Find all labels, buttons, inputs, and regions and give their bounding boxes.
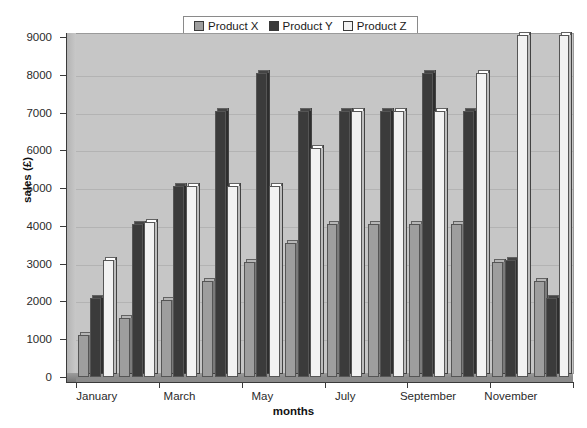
bar	[186, 186, 197, 377]
bar-side	[321, 145, 324, 374]
y-tick-mark	[60, 37, 66, 38]
bar-face	[327, 224, 338, 377]
x-tick-mark	[325, 382, 326, 388]
y-tick-mark	[60, 377, 66, 378]
y-tick-mark	[60, 75, 66, 76]
y-tick-mark	[60, 226, 66, 227]
bar	[161, 300, 172, 377]
y-tick-mark	[60, 301, 66, 302]
x-tick-label: March	[164, 390, 196, 402]
bar	[559, 35, 570, 377]
bar	[244, 262, 255, 377]
bar-side	[445, 108, 448, 374]
bar-face	[451, 224, 462, 377]
bar-face	[339, 111, 350, 377]
y-tick-label: 8000	[0, 69, 52, 81]
x-tick-label: September	[400, 390, 456, 402]
x-tick-label: July	[335, 390, 355, 402]
bar	[393, 111, 404, 377]
bar-side	[155, 219, 158, 374]
bar-chart: Product X Product Y Product Z 0100020003…	[0, 0, 587, 428]
bar-face	[434, 111, 445, 377]
bar-face	[161, 300, 172, 377]
bar	[144, 222, 155, 377]
bar-face	[409, 224, 420, 377]
bar-face	[215, 111, 226, 377]
bar-face	[393, 111, 404, 377]
bar	[546, 298, 557, 377]
bar	[78, 335, 89, 377]
bar-side	[528, 32, 531, 374]
x-tick-label: November	[484, 390, 537, 402]
x-axis-title: months	[0, 405, 587, 417]
bar-face	[559, 35, 570, 377]
bar	[534, 281, 545, 377]
y-tick-label: 1000	[0, 333, 52, 345]
y-tick-label: 9000	[0, 31, 52, 43]
bar	[451, 224, 462, 377]
bar-face	[476, 73, 487, 377]
x-tick-mark	[76, 382, 77, 388]
bar	[269, 186, 280, 377]
y-axis-line	[66, 33, 67, 382]
bar-face	[351, 111, 362, 377]
bar-face	[244, 262, 255, 377]
y-tick-mark	[60, 188, 66, 189]
bar	[409, 224, 420, 377]
bar	[103, 260, 114, 377]
y-tick-mark	[60, 339, 66, 340]
bar	[285, 243, 296, 377]
bar	[476, 73, 487, 377]
plot-wrapper: 0100020003000400050006000700080009000 sa…	[0, 0, 587, 428]
bar	[380, 111, 391, 377]
bar-face	[492, 262, 503, 377]
bar-face	[78, 335, 89, 377]
bar	[327, 224, 338, 377]
bar-face	[368, 224, 379, 377]
bar-face	[546, 298, 557, 377]
bar	[517, 35, 528, 377]
bar-face	[534, 281, 545, 377]
bar-side	[114, 257, 117, 374]
bar-side	[362, 108, 365, 374]
y-tick-label: 0	[0, 371, 52, 383]
bar	[422, 73, 433, 377]
bar	[492, 262, 503, 377]
bar-face	[517, 35, 528, 377]
bar	[505, 260, 516, 377]
bar-face	[132, 224, 143, 377]
bar-face	[505, 260, 516, 377]
bar	[202, 281, 213, 377]
gridline	[76, 189, 573, 190]
bar-face	[227, 186, 238, 377]
bar	[119, 318, 130, 377]
x-tick-label: January	[76, 390, 117, 402]
bar	[215, 111, 226, 377]
bar-face	[463, 111, 474, 377]
bar	[256, 73, 267, 377]
bar-face	[269, 186, 280, 377]
bar-face	[298, 111, 309, 377]
bar-side	[569, 32, 572, 374]
bar	[463, 111, 474, 377]
bar-side	[404, 108, 407, 374]
bar-face	[422, 73, 433, 377]
bar-side	[280, 183, 283, 374]
x-tick-mark	[159, 382, 160, 388]
bar	[173, 186, 184, 377]
y-tick-label: 3000	[0, 258, 52, 270]
bar-face	[285, 243, 296, 377]
y-axis-title: sales (£)	[21, 130, 33, 230]
bar-face	[90, 298, 101, 377]
bar	[351, 111, 362, 377]
x-tick-mark	[490, 382, 491, 388]
y-tick-label: 2000	[0, 295, 52, 307]
bar-face	[119, 318, 130, 377]
bar	[298, 111, 309, 377]
bar-face	[202, 281, 213, 377]
x-tick-mark	[242, 382, 243, 388]
bar-face	[256, 73, 267, 377]
bar-face	[103, 260, 114, 377]
bar	[310, 148, 321, 377]
bar-face	[380, 111, 391, 377]
